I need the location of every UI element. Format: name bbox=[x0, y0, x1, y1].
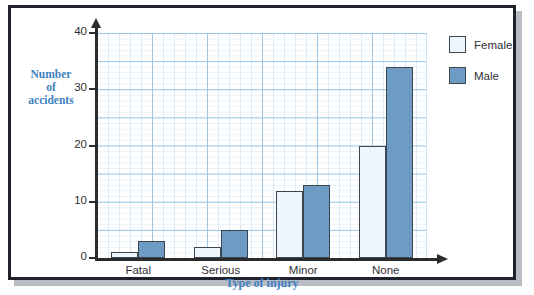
y-axis-tick bbox=[89, 88, 97, 90]
legend-item-female: Female bbox=[449, 36, 513, 53]
bars-layer bbox=[97, 33, 427, 258]
y-axis-tick bbox=[89, 201, 97, 203]
x-axis-title: Type of injury bbox=[97, 276, 427, 291]
legend-label: Male bbox=[474, 70, 499, 82]
bar-chart: 010203040 Numberofaccidents Type of inju… bbox=[11, 8, 513, 277]
x-axis-category-label: None bbox=[345, 264, 427, 276]
y-axis-title-line: of bbox=[15, 81, 87, 94]
bar-none-female bbox=[359, 146, 386, 259]
bar-serious-female bbox=[194, 247, 221, 258]
x-axis-line bbox=[95, 258, 439, 261]
bar-serious-male bbox=[221, 230, 248, 258]
x-axis-arrow-icon bbox=[437, 254, 448, 264]
y-axis-arrow-icon bbox=[91, 18, 101, 28]
x-axis-category-label: Serious bbox=[180, 264, 262, 276]
bar-fatal-male bbox=[138, 241, 165, 258]
legend-swatch-female bbox=[449, 36, 466, 53]
y-axis-tick bbox=[89, 257, 97, 259]
x-axis-category-label: Minor bbox=[262, 264, 344, 276]
bar-minor-female bbox=[276, 191, 303, 259]
legend-item-male: Male bbox=[449, 67, 513, 84]
y-axis-title-line: Number bbox=[15, 68, 87, 81]
legend: FemaleMale bbox=[449, 36, 513, 98]
y-axis-tick-label: 20 bbox=[41, 138, 87, 150]
bar-none-male bbox=[386, 67, 413, 258]
y-axis-title: Numberofaccidents bbox=[15, 68, 87, 107]
y-axis-tick bbox=[89, 32, 97, 34]
legend-label: Female bbox=[474, 39, 512, 51]
y-axis-tick-label: 10 bbox=[41, 194, 87, 206]
y-axis-title-line: accidents bbox=[15, 94, 87, 107]
y-axis-tick bbox=[89, 145, 97, 147]
figure-frame: 010203040 Numberofaccidents Type of inju… bbox=[8, 5, 516, 280]
x-axis-category-label: Fatal bbox=[97, 264, 179, 276]
bar-fatal-female bbox=[111, 252, 138, 258]
y-axis-tick-label: 0 bbox=[41, 250, 87, 262]
bar-minor-male bbox=[303, 185, 330, 258]
y-axis-tick-label: 40 bbox=[41, 25, 87, 37]
legend-swatch-male bbox=[449, 67, 466, 84]
